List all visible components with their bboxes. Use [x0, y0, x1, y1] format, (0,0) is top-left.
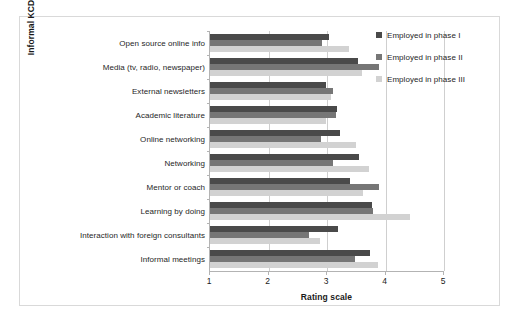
y-axis-tick: [207, 175, 210, 176]
bar: [210, 190, 363, 196]
legend-swatch-icon: [376, 76, 382, 82]
y-axis-category-label: External newsletters: [132, 87, 205, 96]
bar: [210, 46, 349, 52]
y-axis-tick: [207, 199, 210, 200]
legend-item[interactable]: Employed in phase III: [376, 68, 496, 90]
bar: [210, 262, 378, 268]
chart-page: Informal KCD mechanisms Open source onli…: [0, 0, 516, 323]
legend-item[interactable]: Employed in phase II: [376, 46, 496, 68]
legend-swatch-icon: [376, 54, 382, 60]
x-axis-tick: [326, 271, 327, 275]
category-row: Online networking: [210, 127, 444, 151]
legend-label: Employed in phase I: [387, 31, 460, 40]
bar: [210, 142, 356, 148]
y-axis-tick: [207, 223, 210, 224]
y-axis-category-label: Learning by doing: [141, 207, 205, 216]
x-axis-tick-label: 5: [428, 276, 458, 286]
category-row: Learning by doing: [210, 199, 444, 223]
category-row: Networking: [210, 151, 444, 175]
y-axis-tick: [207, 55, 210, 56]
y-axis-tick: [207, 79, 210, 80]
y-axis-title: Informal KCD mechanisms: [26, 0, 40, 80]
legend-label: Employed in phase III: [387, 75, 465, 84]
y-axis-category-label: Open source online info: [119, 39, 205, 48]
legend-label: Employed in phase II: [387, 53, 463, 62]
x-axis-tick: [268, 271, 269, 275]
y-axis-tick: [207, 103, 210, 104]
x-axis-tick-label: 1: [194, 276, 224, 286]
category-row: Interaction with foreign consultants: [210, 223, 444, 247]
y-axis-tick: [207, 127, 210, 128]
bar: [210, 166, 369, 172]
y-axis-category-label: Mentor or coach: [146, 183, 205, 192]
x-axis-tick-label: 4: [370, 276, 400, 286]
y-axis-tick: [207, 247, 210, 248]
y-axis-category-label: Networking: [164, 159, 205, 168]
bar: [210, 214, 410, 220]
x-axis-tick: [443, 271, 444, 275]
y-axis-category-label: Online networking: [140, 135, 205, 144]
y-axis-category-label: Media (tv, radio, newspaper): [103, 63, 205, 72]
bar: [210, 94, 331, 100]
bar: [210, 70, 362, 76]
x-axis-tick: [209, 271, 210, 275]
bar: [210, 118, 326, 124]
x-axis-tick: [385, 271, 386, 275]
chart-legend: Employed in phase IEmployed in phase IIE…: [376, 24, 496, 90]
legend-swatch-icon: [376, 32, 382, 38]
category-row: Academic literature: [210, 103, 444, 127]
bar: [210, 238, 320, 244]
category-row: Informal meetings: [210, 247, 444, 271]
y-axis-tick: [207, 151, 210, 152]
x-axis-tick-label: 3: [311, 276, 341, 286]
category-row: Mentor or coach: [210, 175, 444, 199]
x-axis-title: Rating scale: [209, 292, 444, 302]
y-axis-category-label: Academic literature: [136, 111, 205, 120]
x-axis-tick-label: 2: [253, 276, 283, 286]
legend-item[interactable]: Employed in phase I: [376, 24, 496, 46]
y-axis-tick: [207, 31, 210, 32]
y-axis-category-label: Informal meetings: [141, 255, 205, 264]
y-axis-category-label: Interaction with foreign consultants: [80, 231, 205, 240]
